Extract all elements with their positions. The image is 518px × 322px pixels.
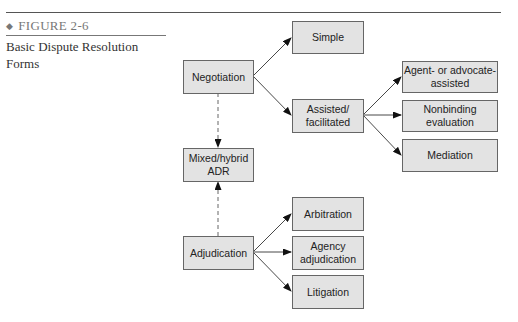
- node-nonbinding-evaluation: Nonbinding evaluation: [402, 100, 498, 132]
- node-simple: Simple: [292, 21, 364, 54]
- node-agency-adjudication: Agency adjudication: [292, 236, 364, 270]
- edge-adjudication-arbitration: [253, 214, 291, 252]
- node-mediation: Mediation: [402, 139, 498, 172]
- node-litigation: Litigation: [292, 275, 364, 309]
- node-agent-advocate-assisted: Agent- or advocate-assisted: [402, 61, 498, 93]
- edge-adjudication-litigation: [253, 252, 291, 291]
- node-adjudication: Adjudication: [183, 236, 254, 270]
- node-mixed-hybrid-adr: Mixed/hybrid ADR: [183, 148, 254, 182]
- node-assisted-facilitated: Assisted/ facilitated: [292, 99, 364, 133]
- node-arbitration: Arbitration: [292, 197, 364, 231]
- edge-negotiation-simple: [253, 38, 291, 76]
- edge-assisted-agent: [363, 77, 401, 115]
- edge-assisted-mediation: [363, 115, 401, 155]
- node-negotiation: Negotiation: [183, 60, 254, 94]
- edge-negotiation-assisted: [253, 76, 291, 115]
